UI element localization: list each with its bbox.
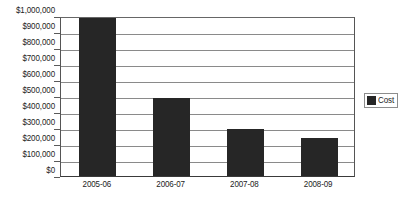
x-axis-tick-label: 2006-07 (134, 179, 208, 191)
bar (79, 18, 116, 176)
screenshot-root: $0$100,000$200,000$300,000$400,000$500,0… (0, 0, 419, 205)
y-axis-tick-label: $1,000,000 (0, 6, 55, 15)
bar (227, 129, 264, 176)
bar (153, 98, 190, 176)
x-axis-label-group: 2005-062006-072007-082008-09 (60, 179, 355, 195)
bar (301, 138, 338, 176)
legend-swatch-cost (367, 96, 376, 105)
y-axis-tickmark-group (0, 17, 60, 177)
bar-chart-figure: $0$100,000$200,000$300,000$400,000$500,0… (0, 0, 419, 205)
x-axis-tick-label: 2008-09 (281, 179, 355, 191)
plot-area (60, 17, 355, 177)
chart-legend: Cost (364, 93, 398, 108)
y-axis-tickmark (54, 177, 60, 178)
legend-label-cost: Cost (378, 95, 394, 105)
x-axis-tick-label: 2007-08 (208, 179, 282, 191)
x-axis-tick-label: 2005-06 (60, 179, 134, 191)
bar-group (61, 18, 354, 176)
